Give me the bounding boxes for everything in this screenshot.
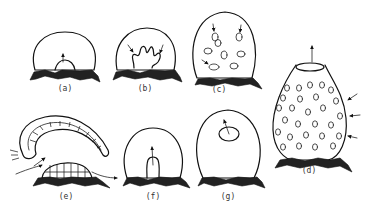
panel-g-drawing: [197, 110, 265, 188]
panel-label-f: (f): [146, 192, 160, 201]
panel-label-b: (b): [138, 84, 152, 93]
panel-label-d: (d): [302, 166, 316, 175]
panel-a-drawing: [30, 32, 100, 82]
panel-d-drawing: [273, 46, 360, 172]
panel-b-drawing: [113, 28, 182, 82]
diagram-drawing: [0, 0, 367, 215]
panel-c-drawing: [193, 12, 262, 89]
panel-label-c: (c): [212, 85, 226, 94]
panel-f-drawing: [123, 128, 190, 188]
panel-e-drawing: [10, 116, 117, 188]
panel-label-g: (g): [221, 192, 235, 201]
panel-label-e: (e): [59, 192, 73, 201]
panel-label-a: (a): [58, 84, 72, 93]
diagram-figure: (a) (b) (c) (d) (e) (f) (g): [0, 0, 367, 215]
